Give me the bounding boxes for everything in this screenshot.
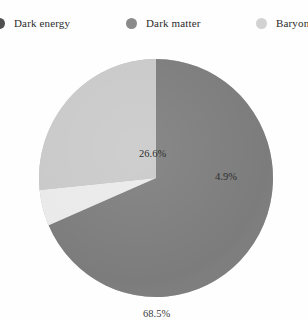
pie-slice-value-label: 4.9%: [215, 172, 237, 183]
legend-item-dark-matter[interactable]: Dark matter: [126, 14, 201, 32]
pie-chart-figure: Dark energy Dark matter Baryons: [0, 0, 308, 320]
pie-shading: [39, 59, 273, 297]
pie-svg: [39, 59, 273, 299]
legend-item-label: Dark matter: [146, 18, 201, 29]
legend-item-baryons[interactable]: Baryons: [256, 14, 308, 32]
pie-graphic: 68.5% 4.9% 26.6%: [39, 59, 273, 299]
pie-slice-value-label: 68.5%: [143, 309, 170, 320]
legend-item-label: Baryons: [276, 18, 308, 29]
chart-legend: Dark energy Dark matter Baryons: [0, 14, 308, 34]
pie-slice-value-label: 26.6%: [139, 149, 166, 160]
legend-swatch-icon: [256, 18, 267, 29]
legend-item-dark-energy[interactable]: Dark energy: [0, 14, 70, 32]
legend-item-label: Dark energy: [14, 18, 70, 29]
legend-swatch-icon: [126, 18, 137, 29]
legend-swatch-icon: [0, 18, 5, 29]
